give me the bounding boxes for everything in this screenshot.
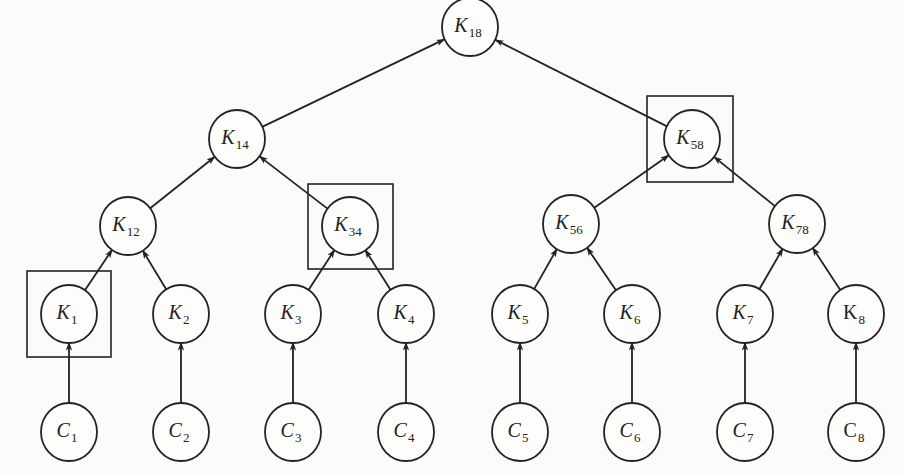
node-label-subscript: 7 — [747, 312, 754, 327]
edge-k4-to-k34 — [365, 250, 391, 291]
node-label-subscript: 4 — [408, 312, 415, 327]
edge-k6-to-k56 — [587, 247, 617, 291]
node-c7: C7 — [717, 403, 773, 461]
edge-k12-to-k14 — [150, 157, 215, 209]
node-c6: C6 — [604, 403, 660, 461]
node-c5: C5 — [492, 403, 548, 461]
node-label-subscript: 14 — [236, 137, 250, 152]
node-label-letter: K — [453, 14, 469, 36]
node-label-letter: K — [780, 211, 796, 233]
node-label-letter: K — [507, 301, 523, 323]
node-c3: C3 — [265, 403, 321, 461]
edge-k1-to-k12 — [85, 249, 113, 290]
node-label-letter: C — [844, 419, 857, 441]
node-label-letter: K — [675, 126, 691, 148]
node-label-letter: C — [508, 419, 522, 441]
node-k14: K14 — [209, 110, 265, 168]
edge-k58-to-k18 — [495, 40, 667, 127]
node-label-subscript: 3 — [295, 312, 302, 327]
node-label-subscript: 3 — [295, 430, 302, 445]
node-k1: K1 — [41, 285, 97, 343]
nodes-layer: K18K14K58K12K34K56K78K1K2K3K4K5K6K7K8C1C… — [41, 0, 884, 461]
node-k5: K5 — [492, 285, 548, 343]
node-label-letter: K — [843, 301, 858, 323]
node-k78: K78 — [769, 195, 825, 253]
node-k6: K6 — [604, 285, 660, 343]
node-label-subscript: 2 — [183, 430, 190, 445]
node-k18: K18 — [442, 0, 498, 56]
node-k34: K34 — [322, 197, 378, 255]
node-label-subscript: 12 — [127, 224, 140, 239]
node-label-subscript: 8 — [858, 312, 865, 327]
edge-k7-to-k78 — [759, 248, 783, 290]
node-label-subscript: 58 — [691, 137, 704, 152]
node-c1: C1 — [41, 403, 97, 461]
node-label-letter: K — [333, 213, 349, 235]
node-c4: C4 — [378, 403, 434, 461]
node-label-letter: K — [393, 301, 409, 323]
node-label-letter: K — [619, 301, 635, 323]
node-label-subscript: 1 — [71, 430, 78, 445]
node-label-letter: C — [394, 419, 408, 441]
node-label-letter: K — [56, 301, 72, 323]
edge-k5-to-k56 — [534, 248, 557, 289]
node-label-subscript: 18 — [469, 25, 482, 40]
node-label-subscript: 7 — [747, 430, 754, 445]
node-label-letter: C — [57, 419, 71, 441]
edge-k3-to-k34 — [308, 250, 335, 291]
key-tree-diagram: K18K14K58K12K34K56K78K1K2K3K4K5K6K7K8C1C… — [0, 0, 903, 475]
node-label-subscript: 1 — [71, 312, 78, 327]
node-k58: K58 — [664, 110, 720, 168]
edge-k14-to-k18 — [262, 39, 445, 127]
node-k56: K56 — [543, 195, 599, 253]
node-k7: K7 — [717, 285, 773, 343]
node-label-subscript: 5 — [522, 312, 529, 327]
node-label-letter: C — [169, 419, 183, 441]
node-label-subscript: 6 — [634, 312, 641, 327]
node-label-subscript: 8 — [858, 430, 865, 445]
node-label-letter: K — [168, 301, 184, 323]
node-label-letter: C — [733, 419, 747, 441]
node-k12: K12 — [100, 197, 156, 255]
node-label-letter: C — [620, 419, 634, 441]
edge-k2-to-k12 — [142, 250, 166, 290]
node-label-subscript: 5 — [522, 430, 529, 445]
node-label-letter: K — [220, 126, 236, 148]
node-label-letter: K — [280, 301, 296, 323]
node-label-subscript: 6 — [634, 430, 641, 445]
node-k8: K8 — [828, 285, 884, 343]
node-label-subscript: 78 — [796, 222, 809, 237]
node-c8: C8 — [828, 403, 884, 461]
node-c2: C2 — [153, 403, 209, 461]
node-label-letter: K — [554, 211, 570, 233]
edge-k8-to-k78 — [812, 247, 840, 290]
edges-layer — [69, 39, 856, 404]
node-label-subscript: 56 — [570, 222, 584, 237]
edge-k34-to-k14 — [259, 156, 328, 209]
node-label-letter: K — [732, 301, 748, 323]
node-k3: K3 — [265, 285, 321, 343]
node-label-letter: C — [281, 419, 295, 441]
node-label-letter: K — [111, 213, 127, 235]
node-k2: K2 — [153, 285, 209, 343]
node-k4: K4 — [378, 285, 434, 343]
node-label-subscript: 4 — [408, 430, 415, 445]
node-label-subscript: 2 — [183, 312, 190, 327]
node-label-subscript: 34 — [349, 224, 363, 239]
